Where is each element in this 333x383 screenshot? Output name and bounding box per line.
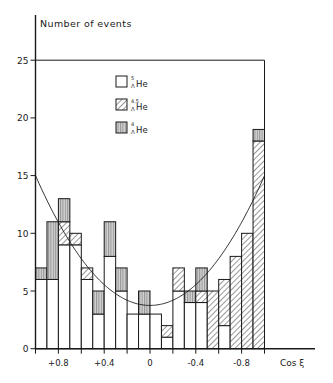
bar-segment-diagonal-hatch [173,268,184,291]
x-tick-label: +0.4 [94,358,115,368]
legend-item: 4,5ΛHe [116,98,148,112]
y-tick-label: 25 [17,56,28,66]
bar-segment-vertical-stripes [93,291,104,314]
y-tick-label: 15 [17,171,28,181]
bar-segment-diagonal-hatch [161,326,172,338]
bar-segment-diagonal-hatch [196,291,207,303]
legend-mass-number: 4 [131,121,134,127]
bar-segment-open [47,279,58,348]
x-tick-label: 0 [147,358,152,368]
legend-label: He [136,79,148,89]
legend-swatch-open [116,76,127,87]
y-tick-label: 20 [17,113,29,123]
bar-segment-open [184,303,195,349]
legend-mass-number: 5 [131,75,134,81]
bar-segment-vertical-stripes [58,199,69,222]
x-tick-label: +0.8 [48,358,69,368]
bar-segment-diagonal-hatch [230,256,241,348]
bar-segment-diagonal-hatch [242,233,253,348]
bar-segment-vertical-stripes [47,222,58,280]
bar-segment-open [161,337,172,349]
bar-segment-diagonal-hatch [70,233,81,245]
histogram-chart: 0510152025+0.8+0.40-0.4-0.8 Number of ev… [0,0,333,383]
bar-segment-vertical-stripes [116,268,127,291]
x-axis-label-text: Cos ξ [280,358,304,368]
x-tick-label: -0.4 [188,358,205,368]
bar-segment-open [93,314,104,349]
legend-swatch-diagonal-hatch [116,99,127,110]
bar-segment-open [58,245,69,349]
y-tick-label: 5 [23,287,29,297]
legend-label: He [136,125,148,135]
y-tick-label: 10 [17,229,29,239]
bar-segment-open [81,279,92,348]
bar-segment-open [36,279,47,348]
legend-lambda: Λ [131,129,135,135]
y-tick-label: 0 [23,344,29,354]
bar-segment-open [150,314,161,349]
legend-lambda: Λ [131,83,135,89]
bar-segment-open [127,314,138,349]
legend-swatch-vertical-stripes [116,122,127,133]
legend: 5ΛHe4,5ΛHe4ΛHe [116,75,148,135]
bar-segment-vertical-stripes [139,291,150,314]
bar-segment-vertical-stripes [253,129,264,141]
x-tick-label: -0.8 [233,358,250,368]
legend-label: He [136,102,148,112]
bar-segment-diagonal-hatch [207,291,218,349]
bar-segment-open [104,256,115,348]
bar-segment-diagonal-hatch [81,268,92,280]
legend-item: 4ΛHe [116,121,148,135]
y-axis-label: Number of events [40,18,132,29]
bars-layer [36,129,265,348]
bar-segment-diagonal-hatch [219,279,230,325]
bar-segment-open [196,303,207,349]
legend-item: 5ΛHe [116,75,148,89]
bar-segment-open [70,245,81,349]
bar-segment-vertical-stripes [36,268,47,280]
x-axis-label: Cos ξ [280,358,304,368]
bar-segment-open [139,314,150,349]
legend-lambda: Λ [131,106,135,112]
bar-segment-diagonal-hatch [253,141,264,349]
bar-segment-vertical-stripes [104,222,115,257]
bar-segment-open [219,326,230,349]
